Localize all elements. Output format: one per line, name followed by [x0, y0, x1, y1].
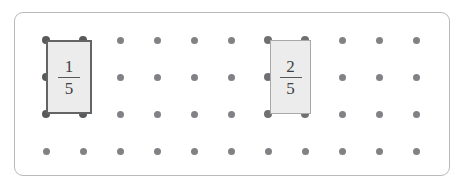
geoboard-peg[interactable] — [117, 37, 124, 44]
fraction-bar — [58, 77, 80, 78]
geoboard-peg[interactable] — [117, 74, 124, 81]
fraction-label: 25 — [271, 41, 310, 113]
geoboard-peg[interactable] — [413, 111, 420, 118]
rectangle-two-fifths[interactable]: 25 — [270, 40, 311, 114]
geoboard-stage: 1525 — [0, 0, 468, 189]
geoboard-peg[interactable] — [191, 37, 198, 44]
geoboard-peg[interactable] — [376, 148, 383, 155]
geoboard-peg[interactable] — [228, 148, 235, 155]
geoboard-peg[interactable] — [228, 111, 235, 118]
geoboard-peg[interactable] — [413, 74, 420, 81]
geoboard-peg[interactable] — [339, 74, 346, 81]
fraction-bar — [280, 77, 302, 78]
geoboard-canvas: 1525 — [0, 0, 468, 189]
geoboard-peg[interactable] — [154, 111, 161, 118]
geoboard-peg[interactable] — [413, 148, 420, 155]
geoboard-peg[interactable] — [117, 111, 124, 118]
geoboard-peg[interactable] — [302, 148, 309, 155]
fraction-label: 15 — [48, 42, 90, 112]
geoboard-peg[interactable] — [413, 37, 420, 44]
geoboard-peg[interactable] — [43, 148, 50, 155]
fraction-numerator: 2 — [286, 58, 295, 77]
geoboard-peg[interactable] — [376, 111, 383, 118]
geoboard-peg[interactable] — [339, 111, 346, 118]
geoboard-peg[interactable] — [191, 111, 198, 118]
fraction-denominator: 5 — [65, 78, 74, 97]
geoboard-peg[interactable] — [154, 74, 161, 81]
fraction-numerator: 1 — [65, 58, 74, 77]
geoboard-peg[interactable] — [154, 148, 161, 155]
geoboard-peg[interactable] — [376, 74, 383, 81]
geoboard-peg[interactable] — [154, 37, 161, 44]
geoboard-peg[interactable] — [117, 148, 124, 155]
geoboard-peg[interactable] — [339, 37, 346, 44]
geoboard-peg[interactable] — [228, 74, 235, 81]
geoboard-peg[interactable] — [228, 37, 235, 44]
geoboard-peg[interactable] — [376, 37, 383, 44]
geoboard-peg[interactable] — [339, 148, 346, 155]
fraction-denominator: 5 — [286, 78, 295, 97]
geoboard-peg[interactable] — [191, 74, 198, 81]
rectangle-one-fifth[interactable]: 15 — [46, 40, 92, 114]
geoboard-peg[interactable] — [191, 148, 198, 155]
geoboard-peg[interactable] — [265, 148, 272, 155]
geoboard-peg[interactable] — [80, 148, 87, 155]
